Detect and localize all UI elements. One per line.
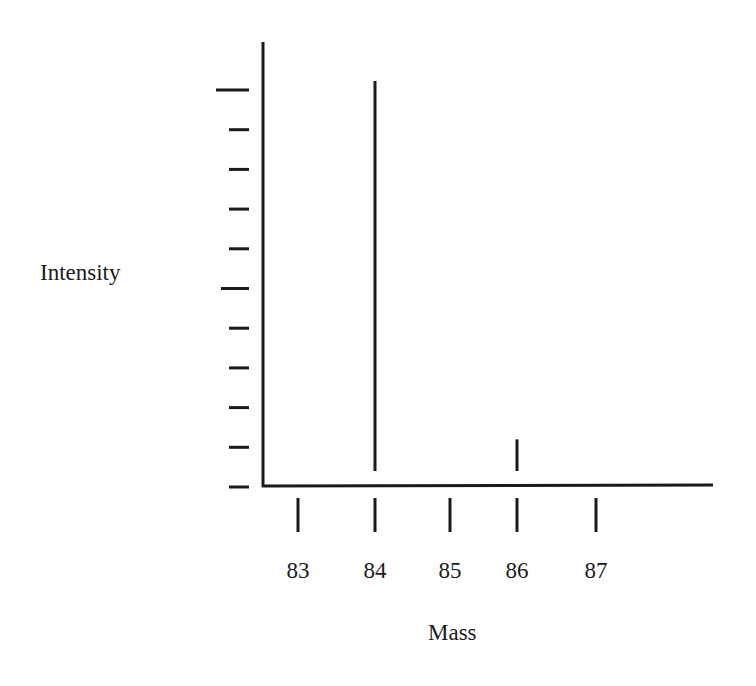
- x-tick-label: 87: [585, 558, 608, 584]
- y-axis-label: Intensity: [40, 260, 121, 286]
- x-axis-ticks: [298, 498, 596, 532]
- x-tick-label: 84: [364, 558, 387, 584]
- x-axis-label: Mass: [428, 620, 477, 646]
- peaks: [375, 81, 517, 471]
- x-tick-label: 83: [287, 558, 310, 584]
- x-axis-line: [262, 485, 713, 486]
- x-tick-label: 86: [506, 558, 529, 584]
- y-axis-ticks: [216, 90, 249, 487]
- x-tick-label: 85: [439, 558, 462, 584]
